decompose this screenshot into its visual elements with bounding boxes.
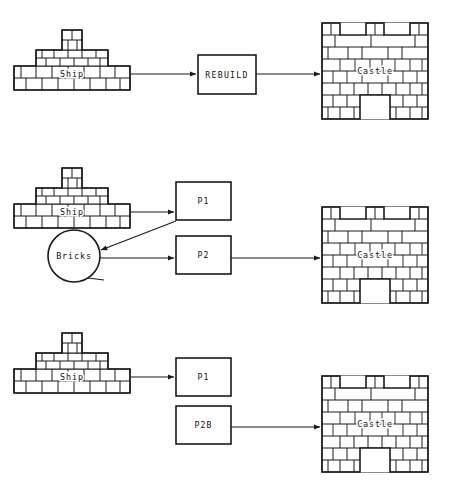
ship-icon [14, 333, 130, 393]
row-single-step-rebuild: Ship REBUILD Castle [14, 23, 428, 119]
node-p2b-3[interactable]: P2B [176, 406, 231, 444]
node-ship-3[interactable]: Ship [14, 333, 130, 393]
node-p1-3[interactable]: P1 [176, 358, 231, 396]
node-castle-1[interactable]: Castle [322, 23, 428, 119]
castle-label: Castle [357, 419, 393, 429]
ship-label: Ship [60, 372, 84, 382]
node-rebuild-1[interactable]: REBUILD [198, 55, 256, 94]
node-ship-1[interactable]: Ship [14, 30, 130, 90]
diagram-canvas: Ship REBUILD Castle Ship P1 [0, 0, 452, 484]
process-diagram: Ship REBUILD Castle Ship P1 [0, 0, 452, 484]
node-castle-3[interactable]: Castle [322, 376, 428, 472]
row-disconnected-rebuild: Ship P1 P2B Castle [14, 333, 428, 472]
p2b-label: P2B [194, 420, 212, 430]
p2-label: P2 [197, 250, 209, 260]
rebuild-label: REBUILD [205, 70, 249, 80]
castle-label: Castle [357, 66, 393, 76]
ship-label: Ship [60, 69, 84, 79]
row-two-step-rebuild-with-bricks: Ship P1 Bricks P2 Castle [14, 168, 428, 303]
bricks-label: Bricks [56, 251, 92, 261]
node-p2-2[interactable]: P2 [176, 236, 231, 274]
p1-label: P1 [197, 372, 209, 382]
node-ship-2[interactable]: Ship [14, 168, 130, 228]
ship-label: Ship [60, 207, 84, 217]
castle-label: Castle [357, 250, 393, 260]
ship-icon [14, 30, 130, 90]
node-castle-2[interactable]: Castle [322, 207, 428, 303]
node-p1-2[interactable]: P1 [176, 182, 231, 220]
ship-icon [14, 168, 130, 228]
node-bricks-2[interactable]: Bricks [48, 230, 104, 282]
bricks-tangent-mark [88, 278, 104, 280]
p1-label: P1 [197, 196, 209, 206]
